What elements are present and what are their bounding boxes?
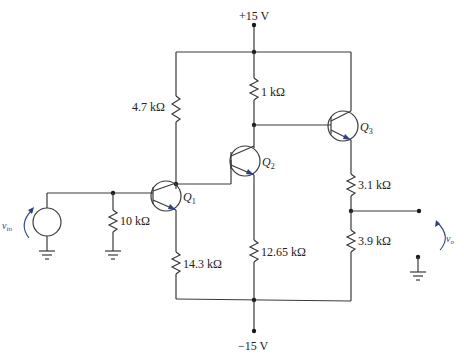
resistor-q1-emitter: [172, 210, 180, 299]
resistor-q3-emitter-bottom-label: 3.9 kΩ: [358, 234, 391, 248]
resistor-q2-emitter: [250, 175, 258, 300]
output-ground-icon: [410, 255, 426, 280]
resistor-q3-emitter-top: [347, 140, 355, 211]
input-voltage-arrow: [24, 210, 32, 238]
circuit-schematic: +15 V 4.7 kΩ 1 kΩ Q3 3.1 kΩ: [0, 0, 464, 358]
resistor-q2-collector-label: 1 kΩ: [261, 85, 285, 99]
resistor-q3-emitter-bottom: [347, 211, 355, 301]
output-voltage-label: vo: [446, 233, 454, 246]
resistor-input-bias: [109, 193, 117, 251]
positive-supply-label: +15 V: [239, 9, 270, 23]
input-voltage-label: vin: [2, 220, 12, 233]
resistor-q1-collector-label: 4.7 kΩ: [132, 100, 165, 114]
positive-supply-terminal: [252, 23, 256, 27]
bottom-rail: [176, 299, 351, 301]
resistor-q3-emitter-top-label: 3.1 kΩ: [358, 178, 391, 192]
output-terminal[interactable]: [417, 209, 421, 213]
bias-ground-icon: [105, 251, 121, 259]
resistor-q1-emitter-label: 14.3 kΩ: [183, 257, 222, 271]
q1-label: Q1: [183, 190, 196, 206]
transistor-q3: [328, 111, 358, 141]
resistor-q2-emitter-label: 12.65 kΩ: [261, 245, 306, 259]
output-voltage-arrow: [437, 222, 445, 250]
resistor-input-bias-label: 10 kΩ: [120, 214, 150, 228]
input-voltage-source: [33, 193, 61, 251]
transistor-q1: [151, 181, 181, 211]
q2-label: Q2: [262, 155, 275, 171]
source-ground-icon: [39, 251, 55, 259]
negative-supply-label: −15 V: [238, 339, 269, 353]
resistor-q1-collector: [172, 52, 180, 184]
q3-label: Q3: [360, 120, 373, 136]
negative-supply-terminal: [252, 329, 256, 333]
transistor-q2: [230, 146, 260, 176]
output-arrowhead-icon: [435, 220, 440, 227]
resistor-q2-collector: [250, 52, 258, 125]
